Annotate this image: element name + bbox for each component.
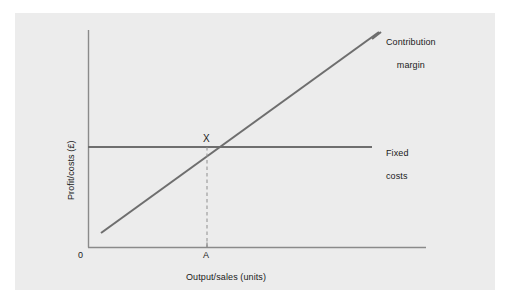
fixed-costs-series-label: Fixed costs — [386, 136, 409, 194]
origin-tick-label: 0 — [78, 250, 83, 262]
breakeven-point-label: X — [203, 133, 210, 145]
x-axis-tick-label-a: A — [203, 250, 209, 262]
x-axis-label: Output/sales (units) — [186, 272, 266, 284]
fixed-costs-label-line-1: Fixed — [386, 148, 409, 160]
contribution-margin-label-line-1: Contribution — [386, 37, 436, 49]
contribution-margin-label-line-2: margin — [386, 60, 436, 72]
fixed-costs-label-line-2: costs — [386, 171, 409, 183]
contribution-margin-line — [101, 32, 379, 233]
chart-figure: Profit/costs (£) Output/sales (units) 0 … — [0, 0, 509, 305]
y-axis-label: Profit/costs (£) — [66, 140, 78, 200]
contribution-margin-series-label: Contribution margin — [386, 25, 436, 83]
